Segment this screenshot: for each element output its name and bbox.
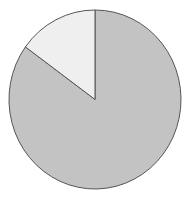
pie-chart-svg	[0, 0, 187, 197]
pie-chart	[0, 0, 187, 197]
